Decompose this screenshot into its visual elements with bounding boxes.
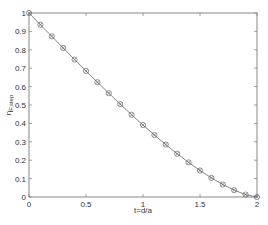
y-tick-label: 1 bbox=[22, 9, 27, 18]
y-axis-ticks: 00.10.20.30.40.50.60.70.80.91 bbox=[15, 9, 257, 202]
x-axis-ticks: 00.511.52 bbox=[27, 13, 260, 209]
data-point-marker bbox=[106, 91, 111, 96]
data-point-marker bbox=[61, 45, 66, 50]
data-point-marker bbox=[49, 34, 54, 39]
x-tick-label: 0 bbox=[27, 200, 32, 209]
data-point-marker bbox=[163, 142, 168, 147]
data-series bbox=[26, 10, 259, 199]
data-point-marker bbox=[186, 160, 191, 165]
data-point-marker bbox=[197, 168, 202, 173]
data-point-marker bbox=[232, 188, 237, 193]
series-line bbox=[29, 13, 257, 197]
y-tick-label: 0.9 bbox=[15, 27, 27, 36]
data-point-marker bbox=[72, 57, 77, 62]
x-tick-label: 0.5 bbox=[80, 200, 92, 209]
data-point-marker bbox=[140, 122, 145, 127]
y-axis-label: ηF,step bbox=[4, 94, 14, 115]
x-tick-label: 1.5 bbox=[194, 200, 206, 209]
data-point-marker bbox=[175, 151, 180, 156]
data-point-marker bbox=[220, 182, 225, 187]
x-tick-label: 2 bbox=[255, 200, 260, 209]
data-point-marker bbox=[38, 22, 43, 27]
data-point-marker bbox=[152, 132, 157, 137]
y-tick-label: 0.2 bbox=[15, 156, 27, 165]
data-point-marker bbox=[209, 175, 214, 180]
y-tick-label: 0.5 bbox=[15, 101, 27, 110]
y-tick-label: 0.1 bbox=[15, 175, 27, 184]
svg-text:ηF,step: ηF,step bbox=[4, 94, 14, 115]
data-point-marker bbox=[129, 112, 134, 117]
axes-box bbox=[29, 13, 257, 197]
data-point-marker bbox=[83, 68, 88, 73]
data-point-marker bbox=[118, 101, 123, 106]
y-tick-label: 0.6 bbox=[15, 83, 27, 92]
x-axis-label: t=d/a bbox=[134, 206, 153, 215]
y-tick-label: 0.8 bbox=[15, 46, 27, 55]
data-point-marker bbox=[95, 80, 100, 85]
chart: 00.511.52 00.10.20.30.40.50.60.70.80.91 … bbox=[0, 0, 268, 225]
y-tick-label: 0.7 bbox=[15, 64, 27, 73]
y-tick-label: 0 bbox=[22, 193, 27, 202]
y-tick-label: 0.3 bbox=[15, 138, 27, 147]
y-tick-label: 0.4 bbox=[15, 119, 27, 128]
y-axis-label-sub: F,step bbox=[8, 94, 14, 111]
